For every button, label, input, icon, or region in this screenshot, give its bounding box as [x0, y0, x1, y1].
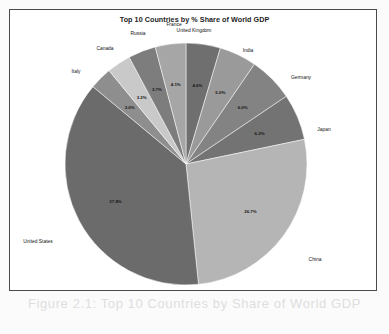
pie-slice-category-label: India: [243, 48, 254, 53]
page-caption-text: Figure 2.1: Top 10 Countries by Share of…: [0, 296, 389, 311]
pie-slice-category-label: Germany: [291, 75, 312, 80]
pie-slice-category-label: Japan: [317, 127, 331, 132]
pie-slice-category-label: China: [309, 257, 322, 262]
pie-slice-value-label: 4.1%: [171, 82, 181, 87]
pie-slice-category-label: Russia: [131, 31, 146, 36]
pie-slice-value-label: 3.2%: [137, 95, 147, 100]
pie-slice-value-label: 6.2%: [255, 131, 265, 136]
pie-slice-value-label: 3.7%: [152, 87, 162, 92]
pie-slice-category-label: United States: [23, 239, 53, 244]
pie-slices-group: [65, 43, 307, 285]
pie-slice-value-label: 4.6%: [192, 83, 202, 88]
pie-chart-svg: 4.6%5.0%6.0%6.2%26.7%37.8%3.0%3.2%3.7%4.…: [9, 9, 377, 291]
pie-slice-value-label: 26.7%: [244, 209, 257, 214]
pie-slice-category-label: Canada: [96, 46, 113, 51]
pie-chart: 4.6%5.0%6.0%6.2%26.7%37.8%3.0%3.2%3.7%4.…: [9, 9, 377, 291]
pie-slice-category-label: France: [166, 22, 182, 27]
pie-slice-category-label: United Kingdom: [177, 28, 212, 33]
pie-slice-value-label: 3.0%: [125, 105, 135, 110]
pie-slice-value-label: 37.8%: [109, 199, 122, 204]
pie-slice-value-label: 5.0%: [215, 90, 225, 95]
pie-slice-category-label: Italy: [72, 69, 82, 74]
pie-slice-value-label: 6.0%: [238, 105, 248, 110]
